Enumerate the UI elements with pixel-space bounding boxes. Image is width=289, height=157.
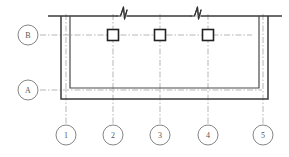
structural-floor-plan: BA12345 <box>0 0 289 157</box>
column-grid-3-B <box>155 30 166 41</box>
grid-bubble-label-2: 2 <box>111 131 115 140</box>
column-grid-4-B <box>203 30 214 41</box>
grid-bubble-label-A: A <box>25 86 31 95</box>
outer-wall <box>61 16 268 99</box>
break-symbol-right-stroke <box>191 7 201 19</box>
grid-bubble-1[interactable]: 1 <box>56 125 76 145</box>
grid-bubble-label-3: 3 <box>158 131 162 140</box>
grid-bubble-3[interactable]: 3 <box>150 125 170 145</box>
grid-bubble-5[interactable]: 5 <box>253 125 273 145</box>
grid-bubble-A[interactable]: A <box>18 80 38 100</box>
grid-bubble-label-5: 5 <box>261 131 265 140</box>
grid-bubble-B[interactable]: B <box>18 25 38 45</box>
outer-wall-outline <box>61 16 268 99</box>
inner-wall-outline <box>70 16 259 88</box>
break-symbol-left-stroke <box>117 7 127 19</box>
grid-bubble-label-4: 4 <box>206 131 210 140</box>
column-grid-2-B <box>108 30 119 41</box>
inner-wall <box>70 16 259 88</box>
horizontal-gridlines <box>40 35 262 90</box>
grid-bubble-label-1: 1 <box>64 131 68 140</box>
plan-canvas: BA12345 <box>0 0 289 157</box>
grid-bubble-4[interactable]: 4 <box>198 125 218 145</box>
grid-bubble-label-B: B <box>25 31 30 40</box>
break-symbols <box>117 7 201 19</box>
grid-bubble-2[interactable]: 2 <box>103 125 123 145</box>
